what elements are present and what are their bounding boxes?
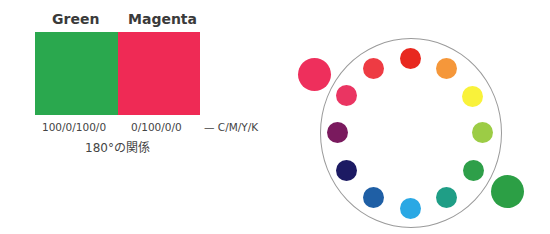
green-cmyk-value: 100/0/100/0 [42,121,106,133]
wheel-dot-pink-red [336,85,357,106]
wheel-dot-red [400,48,421,69]
green-label: Green [52,11,99,27]
wheel-dot-purple [327,122,348,143]
wheel-dot-red-pink [363,58,384,79]
cmyk-legend: — C/M/Y/K [204,121,258,133]
wheel-dot-green [463,160,484,181]
wheel-dot-yellow [462,86,483,107]
magenta-cmyk-value: 0/100/0/0 [131,121,182,133]
green-swatch [35,32,118,115]
magenta-label: Magenta [128,11,197,27]
wheel-dot-teal [436,187,457,208]
wheel-dot-navy [336,160,357,181]
wheel-dot-yellow-green [472,122,493,143]
wheel-dot-orange [436,58,457,79]
wheel-dot-sky-blue [400,198,421,219]
magenta-swatch [118,32,200,115]
wheel-dot-blue [363,187,384,208]
relationship-caption: 180°の関係 [85,138,150,155]
highlight-dot-magenta [298,58,331,91]
highlight-dot-green [491,175,524,208]
